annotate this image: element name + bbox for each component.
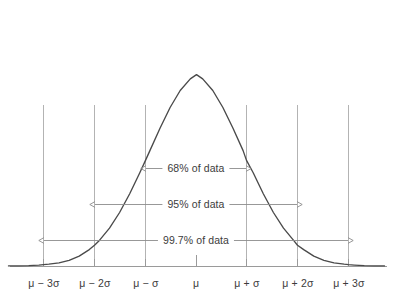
annotation-label-68-percent: 68% of data (162, 162, 229, 174)
x-tick-label-plus-1-sigma: μ + σ (234, 277, 260, 289)
annotation-label-95-percent: 95% of data (162, 198, 229, 210)
x-tick-label-minus-2-sigma: μ − 2σ (79, 277, 111, 289)
x-tick-label-minus-3-sigma: μ − 3σ (28, 277, 60, 289)
x-axis-ticks (44, 255, 349, 266)
x-tick-label-minus-1-sigma: μ − σ (133, 277, 159, 289)
annotation-label-99-7-percent: 99.7% of data (158, 234, 234, 246)
x-tick-label-mu: μ (193, 277, 199, 289)
bell-curve-plot (0, 0, 397, 302)
x-tick-label-plus-2-sigma: μ + 2σ (282, 277, 314, 289)
x-tick-label-plus-3-sigma: μ + 3σ (333, 277, 365, 289)
normal-distribution-figure: 68% of data 95% of data 99.7% of data μ … (0, 0, 397, 302)
